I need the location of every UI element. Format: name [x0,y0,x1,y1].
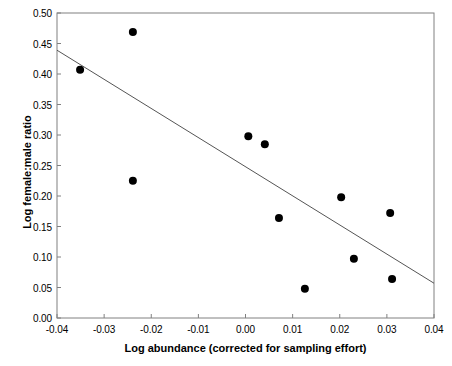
data-point-marker [386,209,394,217]
y-tick-label: 0.05 [8,282,52,293]
plot-frame [57,13,434,318]
data-point-marker [129,177,137,185]
x-tick-label: 0.00 [236,324,255,335]
y-tick-label: 0.00 [8,313,52,324]
y-axis-title: Log female:male ratio [21,72,33,272]
x-tick-label: -0.03 [93,324,115,335]
y-tick-label: 0.50 [8,8,52,19]
x-tick-label: 0.03 [377,324,396,335]
plot-canvas [0,0,452,366]
x-axis-title: Log abundance (corrected for sampling ef… [57,342,434,354]
data-point-marker [275,214,283,222]
data-point-marker [261,140,269,148]
x-tick-label: 0.02 [330,324,349,335]
axis-frame [57,13,434,318]
data-point-marker [388,275,396,283]
regression-trendline [57,50,434,283]
x-tick-label: -0.01 [187,324,209,335]
x-tick-label: 0.01 [283,324,302,335]
y-tick-label: 0.45 [8,38,52,49]
data-point-marker [76,66,84,74]
trendline-segment [57,50,434,283]
data-point-marker [129,28,137,36]
data-point-marker [337,193,345,201]
x-tick-label: 0.04 [424,324,443,335]
data-point-marker [301,285,309,293]
y-axis-ticks [57,13,61,318]
x-axis-ticks [57,314,434,318]
data-point-marker [244,132,252,140]
x-tick-label: -0.04 [46,324,68,335]
scatter-plot-figure: 0.000.050.100.150.200.250.300.350.400.45… [0,0,452,366]
x-tick-label: -0.02 [140,324,162,335]
data-point-marker [350,255,358,263]
